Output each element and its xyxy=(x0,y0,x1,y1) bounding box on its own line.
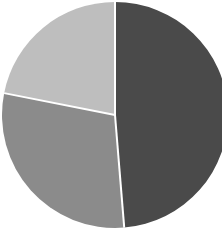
pie-chart-canvas xyxy=(0,0,222,238)
pie-chart xyxy=(0,0,222,238)
pie-slice-1 xyxy=(115,2,222,228)
